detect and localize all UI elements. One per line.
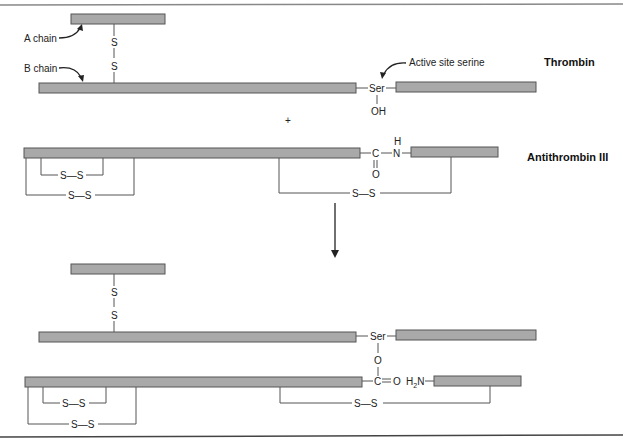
product-sulfur-a: S [111,287,118,298]
inner-loop-left [41,158,58,175]
product-inner-loop-right [89,387,106,403]
antithrombin-iii: S—S S—S S—S C O N H Antithrombin III [24,136,608,201]
thrombin-a-chain [71,14,165,24]
thrombin-b-chain-left [39,83,356,93]
antithrombin-chain-left [24,148,360,158]
product-large-loop-right [383,386,490,403]
a-chain-arrowhead-icon [77,24,83,31]
product-antithrombin-right [434,376,521,386]
amine-group: H2N [406,376,424,389]
hydroxyl-group: OH [371,106,386,117]
sulfur-atom-a: S [111,37,118,48]
thrombin-complex: S S A chain B chain Ser OH Active site s… [24,14,595,117]
outer-loop-right [95,158,134,195]
bottom-rule [0,435,623,437]
thrombin-antithrombin-diagram: S S A chain B chain Ser OH Active site s… [0,0,623,444]
top-rule [0,4,623,5]
product-carbon: C [374,376,381,387]
product-sulfur-b: S [111,310,118,321]
antithrombin-title: Antithrombin III [527,151,608,163]
plus-sign: + [285,115,291,126]
thrombin-antithrombin-complex: S S Ser O S—S S—S S—S C O H2N [25,264,536,430]
serine-residue: Ser [369,83,385,94]
outer-disulfide: S—S [68,190,92,201]
product-large-disulfide: S—S [354,398,378,409]
carbonyl-oxygen: O [372,169,380,180]
product-large-loop-left [280,387,352,403]
b-chain-arrowhead-icon [78,75,84,82]
active-site-arrowhead-icon [380,72,386,79]
active-site-pointer-arrow [384,63,406,74]
product-antithrombin-left [25,377,362,387]
product-inner-disulfide: S—S [62,398,86,409]
large-disulfide: S—S [352,188,376,199]
product-inner-loop-left [43,387,60,403]
b-chain-label: B chain [24,63,57,74]
b-chain-pointer-arrow [59,68,81,77]
product-b-chain-right [396,330,536,340]
reaction-arrowhead-icon [331,250,339,258]
large-loop-left [279,158,350,193]
nitrogen-atom: N [393,148,400,159]
thrombin-title: Thrombin [544,56,595,68]
product-carbonyl-oxygen: O [393,376,401,387]
sulfur-atom-b: S [111,61,118,72]
ester-oxygen: O [374,355,382,366]
inner-disulfide: S—S [60,170,84,181]
thrombin-b-chain-right [396,82,536,92]
carbon-atom: C [372,148,379,159]
product-a-chain [71,264,165,274]
inner-loop-right [86,158,103,175]
product-outer-disulfide: S—S [71,419,95,430]
antithrombin-chain-right [411,147,498,157]
hydrogen-atom: H [394,136,401,147]
a-chain-label: A chain [24,33,57,44]
product-serine: Ser [370,331,386,342]
large-loop-right [380,157,451,193]
a-chain-pointer-arrow [59,28,80,38]
product-outer-loop-right [98,387,136,424]
active-site-label: Active site serine [409,57,485,68]
product-b-chain-left [39,332,356,342]
